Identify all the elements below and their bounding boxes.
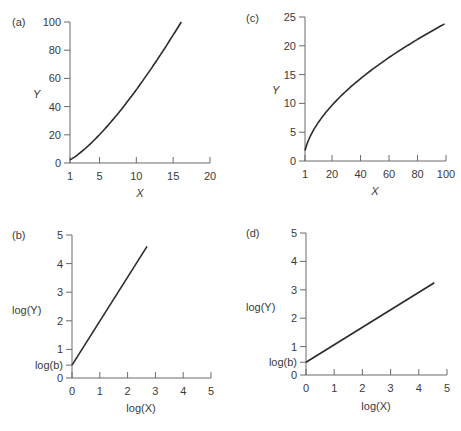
y-tick-label: 20 bbox=[284, 40, 296, 52]
x-tick-label: 5 bbox=[208, 385, 214, 397]
y-tick-label: 10 bbox=[284, 97, 296, 109]
y-tick-label: 100 bbox=[43, 16, 61, 28]
x-tick-label: 1 bbox=[67, 170, 73, 182]
x-tick-label: 5 bbox=[96, 170, 102, 182]
x-tick-label: 4 bbox=[416, 382, 422, 394]
panel-c: (c)0510152025120406080100XY bbox=[246, 11, 455, 197]
x-tick-label: 0 bbox=[69, 385, 75, 397]
y-axis-label: log(Y) bbox=[12, 304, 41, 316]
y-tick-label: 3 bbox=[291, 284, 297, 296]
x-tick-label: 1 bbox=[97, 385, 103, 397]
x-tick-label: 1 bbox=[302, 168, 308, 180]
y-tick-label: 5 bbox=[290, 126, 296, 138]
y-tick-label: 5 bbox=[291, 227, 297, 239]
data-curve bbox=[306, 283, 434, 363]
y-tick-label: 2 bbox=[57, 315, 63, 327]
x-tick-label: 2 bbox=[359, 382, 365, 394]
panel-b: (b)012345log(b)012345log(X)log(Y) bbox=[12, 229, 214, 414]
y-tick-label: 0 bbox=[55, 157, 61, 169]
x-axis-label: X bbox=[370, 185, 379, 197]
y-tick-label: 1 bbox=[291, 341, 297, 353]
y-tick-label: 25 bbox=[284, 11, 296, 23]
x-tick-label: 10 bbox=[130, 170, 142, 182]
log-b-label: log(b) bbox=[269, 356, 297, 368]
y-tick-label: 0 bbox=[291, 369, 297, 381]
y-tick-label: 0 bbox=[57, 372, 63, 384]
y-axis-label: Y bbox=[272, 84, 280, 96]
x-tick-label: 2 bbox=[125, 385, 131, 397]
x-tick-label: 80 bbox=[411, 168, 423, 180]
y-tick-label: 40 bbox=[49, 101, 61, 113]
y-tick-label: 80 bbox=[49, 44, 61, 56]
y-tick-label: 1 bbox=[57, 343, 63, 355]
panel-label: (b) bbox=[12, 229, 25, 241]
x-tick-label: 20 bbox=[204, 170, 216, 182]
panel-d: (d)012345log(b)012345log(X)log(Y) bbox=[246, 227, 450, 412]
y-tick-label: 4 bbox=[291, 255, 297, 267]
x-tick-label: 3 bbox=[388, 382, 394, 394]
x-tick-label: 5 bbox=[444, 382, 450, 394]
y-axis-label: log(Y) bbox=[246, 301, 275, 313]
y-tick-label: 4 bbox=[57, 258, 63, 270]
x-tick-label: 100 bbox=[437, 168, 455, 180]
y-tick-label: 15 bbox=[284, 69, 296, 81]
data-curve bbox=[72, 246, 147, 365]
x-axis-label: X bbox=[135, 187, 144, 199]
log-b-label: log(b) bbox=[35, 359, 63, 371]
x-tick-label: 20 bbox=[326, 168, 338, 180]
figure: (a)02040608010015101520XY (c)05101520251… bbox=[0, 0, 461, 431]
panel-label: (c) bbox=[246, 12, 259, 24]
y-tick-label: 60 bbox=[49, 72, 61, 84]
y-axis-label: Y bbox=[33, 88, 41, 100]
y-tick-label: 20 bbox=[49, 129, 61, 141]
x-axis-label: log(X) bbox=[126, 402, 155, 414]
y-tick-label: 5 bbox=[57, 229, 63, 241]
data-curve bbox=[305, 24, 445, 151]
x-tick-label: 0 bbox=[303, 382, 309, 394]
y-tick-label: 3 bbox=[57, 286, 63, 298]
x-axis-label: log(X) bbox=[361, 400, 390, 412]
panel-a: (a)02040608010015101520XY bbox=[12, 16, 216, 199]
panel-label: (a) bbox=[12, 16, 25, 28]
panel-label: (d) bbox=[246, 227, 259, 239]
x-tick-label: 60 bbox=[383, 168, 395, 180]
x-tick-label: 3 bbox=[152, 385, 158, 397]
data-curve bbox=[70, 22, 181, 160]
x-tick-label: 15 bbox=[167, 170, 179, 182]
x-tick-label: 40 bbox=[354, 168, 366, 180]
x-tick-label: 1 bbox=[331, 382, 337, 394]
y-tick-label: 0 bbox=[290, 155, 296, 167]
y-tick-label: 2 bbox=[291, 312, 297, 324]
x-tick-label: 4 bbox=[180, 385, 186, 397]
